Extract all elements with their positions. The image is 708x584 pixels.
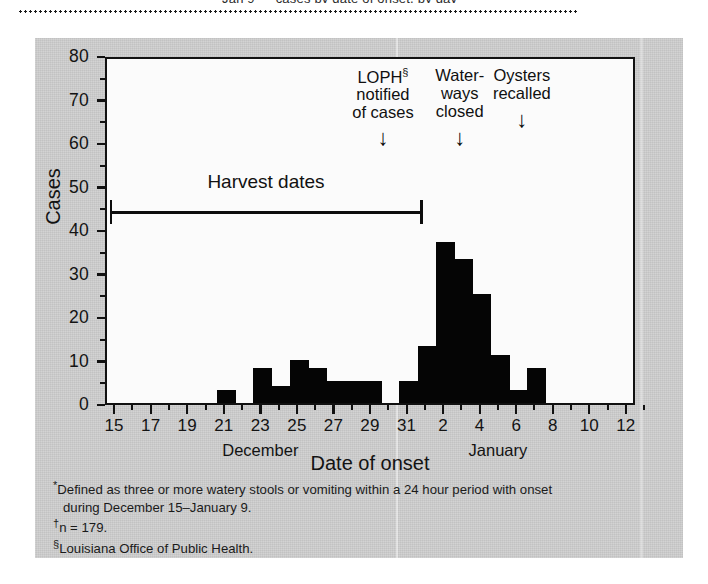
range-cap-left: [110, 200, 113, 224]
bar: [491, 355, 510, 403]
bar: [454, 259, 473, 403]
bar: [271, 386, 290, 403]
x-tick-label: 6: [501, 416, 531, 436]
footnotes: *Defined as three or more watery stools …: [53, 478, 653, 558]
x-tick-label: 4: [465, 416, 495, 436]
y-tick-label: 70: [43, 90, 89, 111]
x-minor-tick: [424, 405, 426, 410]
x-tick-label: 10: [574, 416, 604, 436]
x-tick-label: 2: [428, 416, 458, 436]
x-tick: [369, 405, 371, 414]
range-cap-right: [420, 200, 423, 224]
x-tick-label: 15: [99, 416, 129, 436]
y-tick-label: 80: [43, 46, 89, 67]
annotation-arrow-loph-notified: ↓: [376, 127, 390, 149]
x-tick-label: 31: [392, 416, 422, 436]
x-tick-label: 8: [538, 416, 568, 436]
y-tick: [97, 230, 105, 233]
bar: [253, 368, 272, 403]
y-tick: [97, 143, 105, 146]
x-tick: [223, 405, 225, 414]
footnote-marker: §: [53, 538, 59, 550]
y-tick: [97, 404, 105, 407]
annotation-line: recalled: [467, 85, 577, 103]
y-tick: [97, 56, 105, 59]
x-tick-label: 29: [355, 416, 385, 436]
harvest-range-label: Harvest dates: [156, 171, 376, 193]
x-tick: [150, 405, 152, 414]
x-tick: [479, 405, 481, 414]
x-tick-label: 19: [172, 416, 202, 436]
footnote-marker: *: [53, 479, 57, 491]
x-tick: [515, 405, 517, 414]
x-minor-tick: [314, 405, 316, 410]
y-tick: [97, 99, 105, 102]
x-tick-label: 21: [209, 416, 239, 436]
x-tick-label: 23: [245, 416, 275, 436]
x-minor-tick: [131, 405, 133, 410]
footnote: *Defined as three or more watery stools …: [53, 478, 653, 499]
x-tick-label: 25: [282, 416, 312, 436]
x-minor-tick: [643, 405, 645, 410]
bar: [473, 294, 492, 403]
x-minor-tick: [351, 405, 353, 410]
y-tick: [97, 317, 105, 320]
x-minor-tick: [205, 405, 207, 410]
bar: [290, 360, 309, 404]
x-tick: [332, 405, 334, 414]
x-tick: [552, 405, 554, 414]
footnote-continuation: during December 15–January 9.: [53, 499, 653, 517]
y-tick: [97, 360, 105, 363]
caption-sliver: Jan 9 — cases by date of onset, by day: [222, 0, 642, 3]
annotation-arrow-oysters-recalled: ↓: [515, 109, 529, 131]
footnote: §Louisiana Office of Public Health.: [53, 537, 653, 558]
x-minor-tick: [241, 405, 243, 410]
x-tick: [186, 405, 188, 414]
x-tick-label: 17: [136, 416, 166, 436]
plot-area: Harvest dates LOPH§notifiedof cases↓Wate…: [105, 57, 635, 405]
bar: [308, 368, 327, 403]
annotation-line: Oysters: [467, 67, 577, 85]
y-tick: [97, 273, 105, 276]
footnote-marker: †: [53, 517, 59, 529]
x-tick: [625, 405, 627, 414]
bar: [436, 242, 455, 403]
x-minor-tick: [168, 405, 170, 410]
bar: [345, 381, 364, 403]
x-minor-tick: [570, 405, 572, 410]
x-tick: [588, 405, 590, 414]
annotation-oysters-recalled: Oystersrecalled: [467, 67, 577, 103]
x-tick: [259, 405, 261, 414]
bar: [509, 390, 528, 403]
y-tick-label: 20: [43, 307, 89, 328]
bar: [217, 390, 236, 403]
bar: [326, 381, 345, 403]
annotation-line: closed: [405, 103, 515, 121]
x-tick-label: 27: [318, 416, 348, 436]
x-minor-tick: [460, 405, 462, 410]
annotation-arrow-waterways-closed: ↓: [453, 127, 467, 149]
x-minor-tick: [607, 405, 609, 410]
x-tick: [406, 405, 408, 414]
y-tick-label: 10: [43, 351, 89, 372]
bar: [418, 346, 437, 403]
y-tick: [97, 186, 105, 189]
x-tick: [442, 405, 444, 414]
x-minor-tick: [387, 405, 389, 410]
y-tick-label: 30: [43, 264, 89, 285]
y-tick-label: 0: [43, 394, 89, 415]
x-minor-tick: [497, 405, 499, 410]
x-tick-label: 12: [611, 416, 641, 436]
bar: [399, 381, 418, 403]
harvest-range-marker: [111, 211, 422, 214]
x-tick: [296, 405, 298, 414]
y-axis-title: Cases: [42, 137, 65, 257]
bar: [363, 381, 382, 403]
x-axis-title: Date of onset: [105, 452, 635, 475]
x-tick: [113, 405, 115, 414]
x-minor-tick: [278, 405, 280, 410]
x-minor-tick: [533, 405, 535, 410]
bar: [527, 368, 546, 403]
footnote: †n = 179.: [53, 516, 653, 537]
